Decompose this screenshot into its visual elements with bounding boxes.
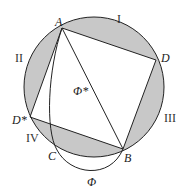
- label-phi: Φ: [87, 175, 96, 189]
- label-A: A: [54, 15, 63, 29]
- label-Dstar: D*: [11, 113, 27, 127]
- region-IV: IV: [26, 131, 39, 145]
- label-D: D: [160, 51, 170, 65]
- region-II: II: [15, 51, 23, 65]
- label-C: C: [48, 149, 57, 163]
- region-I: I: [117, 12, 121, 26]
- geometry-diagram: A D B D* C I II III IV Φ* Φ: [0, 0, 188, 196]
- label-phi-star: Φ*: [73, 84, 88, 98]
- region-III: III: [164, 111, 176, 125]
- label-B: B: [124, 151, 132, 165]
